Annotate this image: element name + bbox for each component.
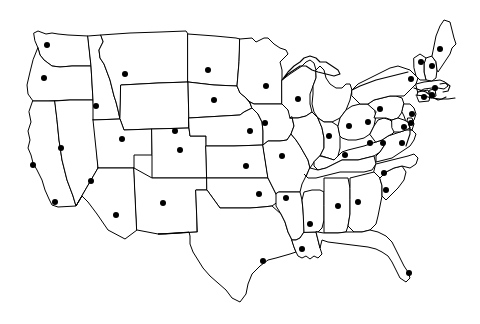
state-ga (348, 172, 382, 232)
city-marker (172, 128, 178, 134)
city-marker (41, 75, 47, 81)
city-marker (283, 195, 289, 201)
city-marker (367, 140, 373, 146)
city-marker (418, 59, 424, 65)
city-marker (211, 97, 217, 103)
city-marker (243, 163, 249, 169)
city-marker (247, 128, 253, 134)
city-marker (342, 152, 348, 158)
state-fl (316, 230, 410, 282)
city-marker (408, 120, 414, 126)
city-marker (406, 270, 412, 276)
city-marker (113, 212, 119, 218)
state-boundaries-group (27, 20, 456, 302)
city-marker (52, 199, 58, 205)
city-marker (429, 92, 435, 98)
city-marker (177, 147, 183, 153)
city-marker (399, 140, 405, 146)
city-marker (58, 145, 64, 151)
state-ks (206, 145, 268, 178)
city-marker (409, 111, 415, 117)
state-nd (188, 34, 240, 86)
city-marker (44, 42, 50, 48)
city-marker (260, 258, 266, 264)
city-marker (421, 94, 427, 100)
city-marker (346, 123, 352, 129)
city-marker (355, 199, 361, 205)
city-marker (295, 96, 301, 102)
us-map-container (0, 0, 480, 324)
city-marker (88, 178, 94, 184)
city-marker (383, 187, 389, 193)
city-marker (401, 124, 407, 130)
state-ok (207, 178, 279, 208)
city-marker (437, 46, 443, 52)
state-ms (302, 190, 324, 232)
state-vt (414, 54, 426, 80)
city-marker (408, 76, 414, 82)
state-wy (120, 82, 189, 130)
city-marker (432, 85, 438, 91)
city-marker (380, 140, 386, 146)
city-marker (326, 133, 332, 139)
city-marker (119, 136, 125, 142)
city-marker (429, 63, 435, 69)
city-marker (30, 162, 36, 168)
scan-artifact (206, 1, 232, 8)
city-marker (93, 103, 99, 109)
city-marker (365, 119, 371, 125)
city-marker (262, 120, 268, 126)
state-mn (237, 38, 288, 104)
city-marker (205, 67, 211, 73)
city-marker (335, 203, 341, 209)
city-marker (299, 246, 305, 252)
city-marker (279, 153, 285, 159)
city-marker (377, 106, 383, 112)
city-marker (122, 71, 128, 77)
city-marker (256, 191, 262, 197)
usa-map-svg (0, 0, 480, 324)
city-marker (263, 83, 269, 89)
city-marker (381, 170, 387, 176)
city-marker (160, 200, 166, 206)
city-marker (307, 221, 313, 227)
